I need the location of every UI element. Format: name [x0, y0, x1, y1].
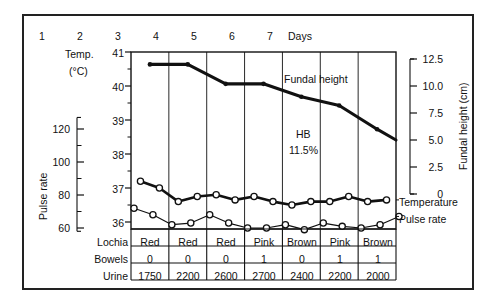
series-point-temperature-12: [346, 193, 352, 199]
series-point-pulse-1: [131, 205, 137, 211]
series-point-fundal-3: [223, 82, 228, 87]
series-point-pulse-4: [188, 220, 194, 226]
series-point-temperature-4: [194, 193, 200, 199]
series-point-fundal-5: [299, 95, 304, 100]
series-point-temperature-11: [327, 199, 333, 205]
series-point-fundal-2: [185, 62, 190, 67]
series-point-temperature-7: [251, 193, 257, 199]
series-point-pulse-13: [358, 225, 364, 231]
series-point-temperature-13: [365, 199, 371, 205]
series-point-fundal-4: [261, 82, 266, 87]
series-point-pulse-11: [320, 220, 326, 226]
chart-plot-svg: [0, 0, 497, 305]
series-point-pulse-8: [263, 225, 269, 231]
series-point-pulse-6: [226, 220, 232, 226]
series-point-fundal-7: [375, 127, 380, 132]
series-point-temperature-14: [383, 197, 389, 203]
series-point-temperature-1: [137, 178, 143, 184]
series-point-temperature-9: [289, 202, 295, 208]
series-point-temperature-2: [156, 185, 162, 191]
series-point-pulse-14: [377, 222, 383, 228]
series-point-pulse-7: [244, 225, 250, 231]
series-line-fundal-height: [150, 64, 396, 140]
series-point-pulse-5: [207, 212, 213, 218]
series-point-fundal-1: [148, 62, 153, 67]
chart-root: 1 2 3 4 5 6 7 Days Temp. (°C) 41 40 39 3…: [0, 0, 497, 305]
series-point-pulse-10: [301, 227, 307, 233]
series-point-temperature-8: [270, 199, 276, 205]
series-point-fundal-6: [337, 103, 342, 108]
series-point-temperature-6: [232, 197, 238, 203]
plot-border: [131, 52, 396, 229]
series-point-pulse-3: [169, 222, 175, 228]
series-point-temperature-3: [175, 199, 181, 205]
series-point-pulse-2: [150, 212, 156, 218]
series-point-pulse-9: [282, 222, 288, 228]
series-point-temperature-10: [308, 199, 314, 205]
series-point-temperature-5: [213, 192, 219, 198]
